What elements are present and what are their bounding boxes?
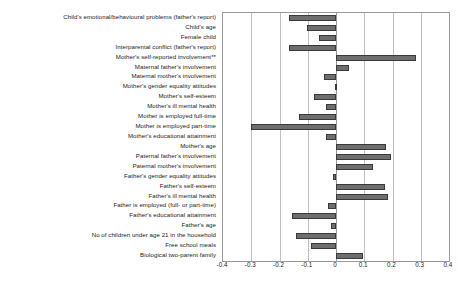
bar: [311, 243, 336, 249]
bar-row: [223, 211, 449, 221]
bar: [328, 203, 336, 209]
category-label: Mother is employed part-time: [0, 121, 219, 131]
bar: [331, 223, 336, 229]
bar: [292, 213, 336, 219]
category-label: Paternal mother's involvement: [0, 161, 219, 171]
bar-row: [223, 53, 449, 63]
category-label: Maternal father's involvement: [0, 62, 219, 72]
category-label: Maternal mother's involvement: [0, 72, 219, 82]
bar: [314, 94, 336, 100]
bar: [335, 84, 337, 90]
bar: [333, 174, 336, 180]
bar: [336, 55, 416, 61]
category-label: Interparental conflict (father's report): [0, 42, 219, 52]
x-tick-label: 0.1: [359, 262, 368, 268]
category-label: Female child: [0, 32, 219, 42]
bar-row: [223, 162, 449, 172]
category-label: Biological two-parent family: [0, 250, 219, 260]
bar-row: [223, 82, 449, 92]
bar-row: [223, 192, 449, 202]
category-label: Father's self-esteem: [0, 181, 219, 191]
bar-row: [223, 63, 449, 73]
bar: [326, 134, 336, 140]
bars-layer: [223, 13, 449, 261]
bar-row: [223, 251, 449, 261]
bar: [336, 154, 391, 160]
category-label: Mother's self-reported involvement**: [0, 52, 219, 62]
bar-row: [223, 112, 449, 122]
x-tick-label: 0.4: [444, 262, 453, 268]
bar-row: [223, 172, 449, 182]
bar: [289, 45, 336, 51]
bar: [299, 114, 336, 120]
category-label: Mother's educational attainment: [0, 131, 219, 141]
category-label: Father's age: [0, 220, 219, 230]
bar-row: [223, 231, 449, 241]
x-tick-label: -0.1: [301, 262, 312, 268]
bar: [251, 124, 336, 130]
category-label: Mother's ill mental health: [0, 101, 219, 111]
category-label-column: Child's emotional/behavioural problems (…: [0, 12, 219, 260]
bar-row: [223, 241, 449, 251]
bar-row: [223, 13, 449, 23]
bar-row: [223, 102, 449, 112]
bar: [336, 65, 349, 71]
category-label: Paternal father's involvement: [0, 151, 219, 161]
bar-row: [223, 122, 449, 132]
x-tick-label: 0.3: [415, 262, 424, 268]
bar-row: [223, 152, 449, 162]
x-tick-label: 0.2: [387, 262, 396, 268]
bar-row: [223, 33, 449, 43]
bar: [336, 253, 363, 259]
bar-row: [223, 142, 449, 152]
category-label: Mother's self-esteem: [0, 91, 219, 101]
category-label: No of children under age 21 in the house…: [0, 230, 219, 240]
category-label: Child's emotional/behavioural problems (…: [0, 12, 219, 22]
category-label: Mother's age: [0, 141, 219, 151]
bar-row: [223, 73, 449, 83]
bar: [336, 184, 385, 190]
bar: [319, 35, 336, 41]
category-label: Father's gender equality attitudes: [0, 171, 219, 181]
bar: [324, 74, 336, 80]
category-label: Mother's gender equality attitudes: [0, 81, 219, 91]
x-axis-tick-labels: -0.4-0.3-0.2-0.100.10.20.30.4: [222, 262, 448, 276]
x-tick-label: -0.4: [217, 262, 228, 268]
x-tick-label: 0: [333, 262, 337, 268]
bar: [307, 25, 336, 31]
bar-row: [223, 92, 449, 102]
x-tick-label: -0.3: [245, 262, 256, 268]
bar: [336, 144, 386, 150]
category-label: Mother is employed full-time: [0, 111, 219, 121]
coefficient-bar-chart: Child's emotional/behavioural problems (…: [0, 0, 469, 297]
bar-row: [223, 221, 449, 231]
bar: [296, 233, 336, 239]
bar-row: [223, 202, 449, 212]
x-tick-label: -0.2: [273, 262, 284, 268]
bar-row: [223, 23, 449, 33]
category-label: Father's ill mental health: [0, 191, 219, 201]
category-label: Free school meals: [0, 240, 219, 250]
bar-row: [223, 43, 449, 53]
bar-row: [223, 132, 449, 142]
bar-row: [223, 182, 449, 192]
bar: [336, 164, 373, 170]
category-label: Father is employed (full- or part-time): [0, 201, 219, 211]
category-label: Child's age: [0, 22, 219, 32]
plot-area: [222, 12, 450, 262]
bar: [326, 104, 336, 110]
bar: [336, 194, 388, 200]
category-label: Father's educational attainment: [0, 210, 219, 220]
bar: [289, 15, 336, 21]
